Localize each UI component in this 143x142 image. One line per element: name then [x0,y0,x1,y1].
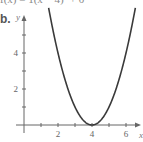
x-tick-label: 6 [124,129,129,139]
x-axis-label: x [138,130,143,140]
y-tick-label: 2 [14,84,19,94]
parabola-chart: 246 24 x y [0,0,143,142]
y-axis-label: y [15,12,20,22]
x-axis [16,123,141,128]
y-tick-label: 4 [14,48,19,58]
x-tick-label: 2 [56,129,61,139]
y-axis [22,15,27,133]
x-tick-label: 4 [90,129,95,139]
y-axis-arrow-icon [22,15,27,21]
parabola-curve [49,8,136,125]
x-axis-arrow-icon [135,123,141,128]
